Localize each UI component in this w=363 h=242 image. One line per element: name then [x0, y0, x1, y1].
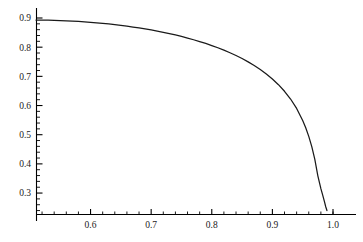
x-tick-label: 0.9	[266, 220, 278, 230]
y-tick-label: 0.5	[19, 130, 31, 140]
y-tick-label: 0.6	[19, 101, 31, 111]
y-tick-label: 0.8	[19, 43, 31, 53]
x-tick-label: 0.7	[145, 220, 157, 230]
y-tick-label: 0.3	[19, 188, 31, 198]
plot-container: 0.30.40.50.60.70.80.9 0.60.70.80.91.0	[0, 0, 363, 242]
x-tick-label: 1.0	[327, 220, 339, 230]
y-tick-label: 0.4	[19, 159, 31, 169]
y-tick-label: 0.9	[19, 13, 31, 23]
x-tick-label: 0.6	[85, 220, 97, 230]
y-tick-label: 0.7	[19, 72, 31, 82]
line-chart: 0.30.40.50.60.70.80.9 0.60.70.80.91.0	[0, 0, 363, 242]
x-tick-label: 0.8	[206, 220, 218, 230]
